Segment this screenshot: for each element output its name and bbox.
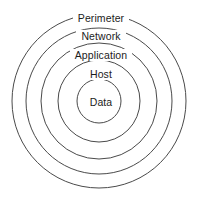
ring-label-perimeter: Perimeter	[0, 13, 202, 24]
ring-label-data: Data	[0, 97, 202, 108]
ring-label-application: Application	[0, 50, 202, 61]
ring-label-network: Network	[0, 31, 202, 42]
defense-in-depth-diagram: Perimeter Network Application Host Data	[0, 0, 202, 198]
ring-label-host: Host	[0, 69, 202, 80]
